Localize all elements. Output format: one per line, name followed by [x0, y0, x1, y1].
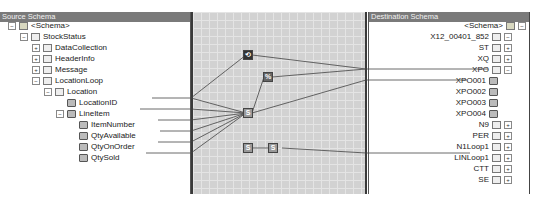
node-label: N9: [479, 120, 489, 129]
node-label: QtyAvailable: [91, 131, 136, 140]
node-label: N1Loop1: [457, 142, 489, 151]
node-label: <Schema>: [464, 21, 503, 30]
destination-node[interactable]: XPO−: [472, 64, 512, 75]
folder-icon: [19, 22, 28, 30]
record-icon: [43, 77, 52, 85]
expand-icon[interactable]: +: [504, 132, 512, 140]
source-node[interactable]: QtySold: [68, 152, 119, 163]
destination-node[interactable]: N9+: [479, 119, 512, 130]
source-node[interactable]: −Location: [44, 86, 97, 97]
source-node[interactable]: +DataCollection: [32, 42, 107, 53]
node-label: XPO001: [456, 76, 486, 85]
destination-node[interactable]: ST+: [479, 42, 512, 53]
collapse-icon[interactable]: −: [56, 110, 64, 118]
node-label: LocationLoop: [55, 76, 103, 85]
source-node[interactable]: QtyOnOrder: [68, 141, 135, 152]
node-label: LocationID: [79, 98, 117, 107]
destination-node[interactable]: X12_00401_852−: [430, 31, 512, 42]
node-label: HeaderInfo: [55, 54, 95, 63]
field-icon: [79, 154, 88, 162]
record-icon: [492, 55, 501, 63]
expand-icon[interactable]: +: [504, 165, 512, 173]
scripting-functoid-1[interactable]: S: [243, 108, 253, 118]
destination-node[interactable]: XQ+: [477, 53, 512, 64]
expand-icon[interactable]: +: [504, 176, 512, 184]
destination-node[interactable]: XPO003: [456, 97, 498, 108]
node-label: Location: [67, 87, 97, 96]
source-node[interactable]: +HeaderInfo: [32, 53, 95, 64]
destination-node[interactable]: LINLoop1+: [454, 152, 512, 163]
field-icon: [489, 77, 498, 85]
destination-node[interactable]: SE+: [478, 174, 512, 185]
source-node[interactable]: ItemNumber: [68, 119, 135, 130]
collapse-icon[interactable]: −: [518, 22, 526, 30]
collapse-icon[interactable]: −: [504, 66, 512, 74]
destination-schema-pane: Destination Schema <Schema>−X12_00401_85…: [368, 12, 530, 194]
destination-node[interactable]: <Schema>−: [464, 20, 526, 31]
expand-icon[interactable]: +: [504, 143, 512, 151]
record-icon: [43, 55, 52, 63]
source-node[interactable]: QtyAvailable: [68, 130, 136, 141]
node-label: PER: [473, 131, 489, 140]
destination-node[interactable]: PER+: [473, 130, 512, 141]
collapse-icon[interactable]: −: [504, 33, 512, 41]
node-label: XQ: [477, 54, 489, 63]
record-icon: [492, 143, 501, 151]
destination-node[interactable]: CTT+: [473, 163, 512, 174]
record-icon: [492, 33, 501, 41]
mapper-grid[interactable]: [191, 12, 367, 194]
expand-icon[interactable]: +: [504, 55, 512, 63]
source-node[interactable]: −<Schema>: [8, 20, 70, 31]
record-icon: [55, 88, 64, 96]
node-label: DataCollection: [55, 43, 107, 52]
record-icon: [492, 66, 501, 74]
expand-icon[interactable]: +: [504, 121, 512, 129]
scripting-functoid-3[interactable]: S: [268, 143, 278, 153]
record-icon: [31, 33, 40, 41]
node-label: XPO: [472, 65, 489, 74]
source-node[interactable]: −LocationLoop: [32, 75, 103, 86]
expand-icon[interactable]: +: [504, 154, 512, 162]
record-icon: [492, 44, 501, 52]
expand-icon[interactable]: +: [32, 66, 40, 74]
field-icon: [79, 143, 88, 151]
node-label: XPO002: [456, 87, 486, 96]
record-icon: [43, 66, 52, 74]
node-label: StockStatus: [43, 32, 86, 41]
collapse-icon[interactable]: −: [8, 22, 16, 30]
field-icon: [489, 88, 498, 96]
collapse-icon[interactable]: −: [32, 77, 40, 85]
node-label: X12_00401_852: [430, 32, 489, 41]
node-label: XPO003: [456, 98, 486, 107]
node-label: XPO004: [456, 109, 486, 118]
field-icon: [489, 99, 498, 107]
destination-node[interactable]: XPO001: [456, 75, 498, 86]
node-label: QtyOnOrder: [91, 142, 135, 151]
source-node[interactable]: +Message: [32, 64, 87, 75]
field-icon: [67, 110, 76, 118]
field-icon: [67, 99, 76, 107]
collapse-icon[interactable]: −: [20, 33, 28, 41]
expand-icon[interactable]: +: [504, 44, 512, 52]
node-label: SE: [478, 175, 489, 184]
expand-icon[interactable]: +: [32, 55, 40, 63]
node-label: CTT: [473, 164, 489, 173]
record-icon: [43, 44, 52, 52]
expand-icon[interactable]: +: [32, 44, 40, 52]
source-schema-pane: Source Schema −<Schema>−StockStatus+Data…: [0, 12, 191, 194]
destination-node[interactable]: XPO004: [456, 108, 498, 119]
string-functoid-2[interactable]: %: [263, 72, 273, 82]
node-label: QtySold: [91, 153, 119, 162]
scripting-functoid-2[interactable]: S: [243, 143, 253, 153]
node-label: <Schema>: [31, 21, 70, 30]
string-functoid-1[interactable]: ⟲: [243, 50, 253, 60]
node-label: ST: [479, 43, 489, 52]
destination-node[interactable]: N1Loop1+: [457, 141, 512, 152]
collapse-icon[interactable]: −: [44, 88, 52, 96]
source-node[interactable]: −LineItem: [56, 108, 110, 119]
record-icon: [492, 176, 501, 184]
source-node[interactable]: LocationID: [56, 97, 117, 108]
source-node[interactable]: −StockStatus: [20, 31, 86, 42]
folder-icon: [506, 22, 515, 30]
destination-node[interactable]: XPO002: [456, 86, 498, 97]
